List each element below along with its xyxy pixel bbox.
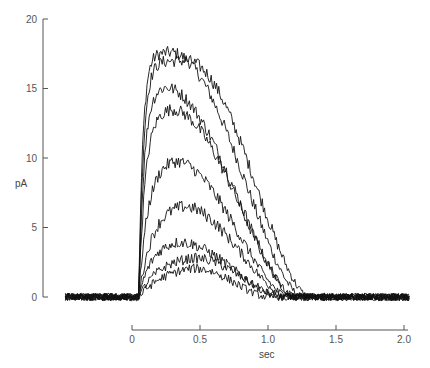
x-tick-label: 1.5 — [329, 334, 343, 345]
y-tick-label: 5 — [31, 222, 37, 233]
x-tick-label: 2.0 — [397, 334, 411, 345]
y-tick-label: 20 — [26, 14, 38, 25]
x-axis: 00.51.01.52.0 — [129, 325, 411, 345]
x-tick-label: 0 — [129, 334, 135, 345]
chart: 05101520 00.51.01.52.0 pA sec — [0, 0, 430, 368]
y-axis: 05101520 — [26, 14, 48, 303]
x-tick-label: 0.5 — [193, 334, 207, 345]
x-tick-label: 1.0 — [261, 334, 275, 345]
y-axis-label: pA — [15, 178, 28, 189]
y-tick-label: 15 — [26, 83, 38, 94]
trace-line-2 — [65, 55, 409, 300]
traces — [65, 46, 409, 300]
trace-line-1 — [65, 46, 409, 300]
trace-line-3 — [65, 84, 409, 301]
trace-line-5 — [65, 158, 409, 301]
y-tick-label: 0 — [31, 292, 37, 303]
y-tick-label: 10 — [26, 153, 38, 164]
x-axis-label: sec — [259, 349, 275, 360]
